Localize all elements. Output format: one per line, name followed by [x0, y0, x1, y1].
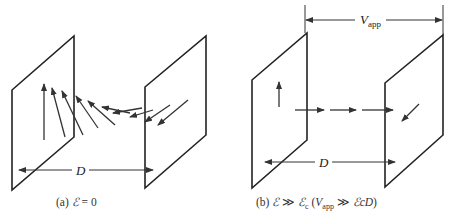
- caption-b: (b) ℰ ≫ ℰc (Vapp ≫ ℰcD): [256, 195, 377, 211]
- left-plate-a: [12, 36, 74, 190]
- caption-a-rest: = 0: [79, 196, 97, 208]
- voltage-subscript: app: [368, 19, 381, 29]
- caption-b-critical-field: ℰ: [298, 196, 305, 208]
- field-arrows-b: [279, 82, 419, 121]
- panel-a: D: [12, 36, 206, 190]
- voltage-dimension: V app: [305, 5, 443, 35]
- dimension-D-b: D: [265, 155, 395, 170]
- dimension-label-a: D: [75, 163, 86, 178]
- right-plate-a: [145, 36, 206, 188]
- caption-b-paren-close: ): [373, 196, 377, 208]
- caption-a-field-symbol: ℰ: [72, 196, 79, 208]
- dimension-label-b: D: [318, 155, 329, 170]
- diagram-canvas: D V app D: [0, 0, 453, 220]
- caption-b-prefix: (b): [256, 196, 269, 208]
- panel-b: V app D: [252, 5, 443, 188]
- right-plate-b: [385, 35, 443, 187]
- dimension-D-a: D: [19, 163, 153, 178]
- caption-b-gg: ≫: [279, 196, 298, 208]
- caption-a-prefix: (a): [56, 196, 69, 208]
- caption-b-gg2: ≫: [334, 196, 353, 208]
- caption-b-voltage-sub: app: [322, 202, 334, 211]
- caption-b-tail: ℰcD: [353, 196, 373, 208]
- caption-a: (a) ℰ = 0: [56, 195, 97, 209]
- field-arrows-a: [44, 84, 188, 140]
